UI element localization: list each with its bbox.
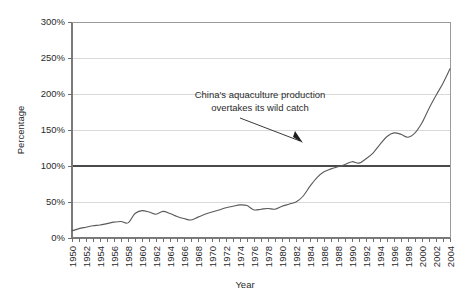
x-tick-label-1974: 1974 (235, 246, 246, 267)
x-tick-label-1958: 1958 (123, 246, 134, 267)
x-tick-label-1994: 1994 (375, 246, 386, 267)
x-tick-label-1996: 1996 (389, 246, 400, 267)
x-axis-title: Year (235, 279, 254, 290)
y-tick-label-300: 300% (41, 16, 66, 27)
x-tick-label-1992: 1992 (361, 246, 372, 267)
y-tick-label-50: 50% (46, 196, 66, 207)
x-tick-label-2002: 2002 (431, 246, 442, 267)
y-tick-label-200: 200% (41, 88, 66, 99)
x-tick-label-1988: 1988 (333, 246, 344, 267)
y-tick-labels: 300% 250% 200% 150% 100% 50% 0% (41, 16, 66, 243)
y-axis-title: Percentage (15, 106, 26, 155)
x-tick-label-1976: 1976 (249, 246, 260, 267)
y-tick-label-250: 250% (41, 52, 66, 63)
x-tick-label-1962: 1962 (151, 246, 162, 267)
x-tick-label-1966: 1966 (179, 246, 190, 267)
percentage-vs-year-line-chart: 300% 250% 200% 150% 100% 50% 0% Percenta… (0, 0, 467, 294)
x-tick-label-1964: 1964 (165, 246, 176, 267)
x-tick-label-1972: 1972 (221, 246, 232, 267)
x-tick-label-1970: 1970 (207, 246, 218, 267)
y-tick-label-0: 0% (51, 232, 65, 243)
x-tick-label-1998: 1998 (403, 246, 414, 267)
x-tick-label-1980: 1980 (277, 246, 288, 267)
x-tick-label-1990: 1990 (347, 246, 358, 267)
x-tick-label-1950: 1950 (67, 246, 78, 267)
annotation-line-2: overtakes its wild catch (211, 102, 309, 113)
y-tick-label-100: 100% (41, 160, 66, 171)
x-tick-group: 1950195219541956195819601962196419661968… (67, 238, 456, 267)
x-tick-label-1968: 1968 (193, 246, 204, 267)
x-tick-label-1982: 1982 (291, 246, 302, 267)
x-tick-label-1978: 1978 (263, 246, 274, 267)
x-tick-label-1956: 1956 (109, 246, 120, 267)
chart-container: 300% 250% 200% 150% 100% 50% 0% Percenta… (0, 0, 467, 294)
x-tick-label-1986: 1986 (319, 246, 330, 267)
x-tick-label-2004: 2004 (445, 246, 456, 267)
x-tick-label-1952: 1952 (81, 246, 92, 267)
x-tick-label-1960: 1960 (137, 246, 148, 267)
y-tick-label-150: 150% (41, 124, 66, 135)
annotation-line-1: China's aquaculture production (195, 89, 326, 100)
x-tick-label-1984: 1984 (305, 246, 316, 267)
x-tick-label-1954: 1954 (95, 246, 106, 267)
x-tick-label-2000: 2000 (417, 246, 428, 267)
